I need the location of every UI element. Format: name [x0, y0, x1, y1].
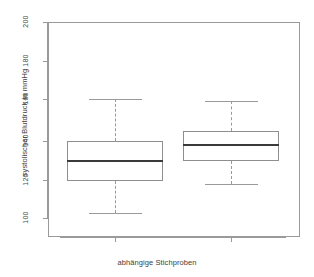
whisker-cap-upper-2: [205, 101, 258, 102]
y-tick-label-100: 100: [22, 207, 29, 229]
y-tick-mark-180: [43, 61, 48, 62]
median-line-1: [67, 160, 163, 162]
whisker-cap-upper-1: [89, 99, 142, 100]
plot-area-frame: [48, 22, 300, 237]
y-tick-mark-160: [43, 99, 48, 100]
x-axis-line: [60, 237, 286, 238]
x-tick-mark-1: [115, 237, 116, 242]
y-tick-mark-100: [43, 218, 48, 219]
box-2: [183, 131, 279, 161]
y-tick-mark-200: [43, 22, 48, 23]
whisker-upper-2: [231, 101, 232, 131]
whisker-lower-2: [231, 161, 232, 184]
whisker-cap-lower-2: [205, 184, 258, 185]
x-tick-mark-2: [231, 237, 232, 242]
whisker-upper-1: [115, 99, 116, 141]
whisker-cap-lower-1: [89, 213, 142, 214]
boxplot-figure: 200 180 160 140 120 100 systolischer Blu…: [0, 0, 314, 277]
y-tick-label-200: 200: [22, 11, 29, 33]
whisker-lower-1: [115, 181, 116, 213]
x-axis-title: abhängige Stichproben: [0, 258, 314, 267]
y-axis-title: systolischer Blutdruck in mmHg: [20, 53, 29, 193]
y-tick-mark-140: [43, 141, 48, 142]
y-tick-mark-120: [43, 180, 48, 181]
median-line-2: [183, 144, 279, 146]
